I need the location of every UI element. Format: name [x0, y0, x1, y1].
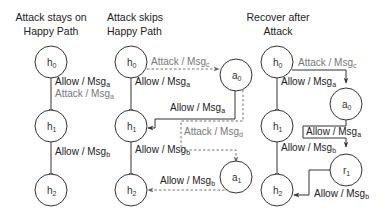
- panel-title-line1: Attack skips: [107, 11, 163, 23]
- node-r1: r1: [330, 154, 362, 186]
- node-h1: h1: [115, 110, 147, 142]
- edge-label-allow-msgb: Allow / Msgb: [135, 144, 190, 156]
- edge-a1-h2: [148, 190, 236, 192]
- node-h1: h1: [261, 110, 293, 142]
- node-h1: h1: [35, 110, 67, 142]
- edge-label-allow-msga-2: Allow / Msga: [306, 126, 361, 138]
- edge-label-allow-msgb: Allow / Msgb: [55, 146, 110, 158]
- edge-label-attack-msgc: Attack / Msgc: [298, 57, 357, 69]
- node-h0: h0: [35, 46, 67, 78]
- edge-label-allow-msgb: Allow / Msgb: [281, 142, 336, 154]
- node-h0: h0: [115, 46, 147, 78]
- edge-label-allow-msga: Allow / Msga: [281, 76, 336, 88]
- edge-label-allow-msga: Allow / Msga: [135, 76, 190, 88]
- panel-recover-after-attack: Recover after Attack h0 h1 h2 a0: [246, 11, 369, 206]
- node-a1: a1: [220, 161, 252, 193]
- node-h0: h0: [261, 46, 293, 78]
- panel-title-line1: Attack stays on: [15, 11, 86, 23]
- edge-label-allow-msga: Allow / Msga: [55, 76, 110, 88]
- node-a0: a0: [330, 88, 362, 120]
- edge-label-allow-msgb-2: Allow / Msgb: [314, 188, 369, 200]
- node-a0: a0: [220, 59, 252, 91]
- panel-attack-stays-on-happy-path: Attack stays on Happy Path h0 h1 h2 Allo…: [15, 11, 114, 206]
- node-h2: h2: [115, 174, 147, 206]
- edge-label-allow-msga-2: Allow / Msga: [170, 102, 225, 114]
- panel-title-line2: Attack: [263, 25, 293, 37]
- state-diagram: Attack stays on Happy Path h0 h1 h2 Allo…: [0, 0, 385, 217]
- node-h2: h2: [35, 174, 67, 206]
- panel-title-line2: Happy Path: [107, 25, 162, 37]
- edge-label-allow-msgb-2: Allow / Msgb: [160, 175, 215, 187]
- node-h2: h2: [261, 174, 293, 206]
- panel-title-line1: Recover after: [246, 11, 310, 23]
- edge-label-attack-msgc: Attack / Msgc: [151, 56, 210, 68]
- panel-attack-skips-happy-path: Attack skips Happy Path h0 h1 h2 a0: [107, 11, 252, 206]
- panel-title-line2: Happy Path: [24, 25, 79, 37]
- edge-label-attack-msga: Attack / Msga: [55, 88, 114, 100]
- edge-label-attack-msgd: Attack / Msgd: [184, 126, 243, 138]
